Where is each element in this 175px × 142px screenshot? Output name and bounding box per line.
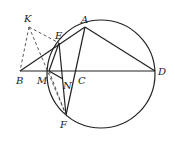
label-M: M [36, 75, 48, 86]
segment-AD [85, 27, 155, 71]
label-N: N [62, 80, 73, 91]
label-C: C [78, 75, 86, 86]
label-E: E [54, 30, 63, 41]
label-F: F [59, 119, 68, 130]
label-D: D [157, 66, 166, 77]
label-K: K [23, 13, 32, 24]
circle [47, 20, 155, 128]
segment-MN [49, 71, 63, 79]
segment-KB [20, 27, 29, 71]
label-A: A [80, 14, 88, 25]
label-B: B [15, 75, 23, 86]
segment-BA [20, 27, 85, 71]
geometry-figure: K A E B M N C D F [0, 0, 175, 142]
